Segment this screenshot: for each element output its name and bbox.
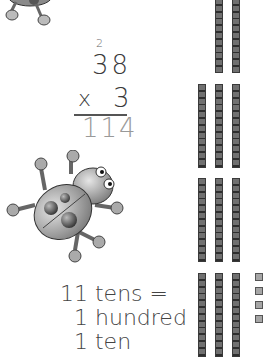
multiplier: 3 <box>113 83 133 113</box>
ten-rod <box>198 178 206 262</box>
ten-rod <box>215 178 223 262</box>
carry-digit: 2 <box>96 37 106 50</box>
ten-rod <box>215 273 223 357</box>
explanation-line-3: 1 ten <box>74 330 131 354</box>
ten-rod <box>198 273 206 357</box>
unit-cube <box>255 301 263 309</box>
ten-rod <box>232 0 240 73</box>
ten-rod <box>232 178 240 262</box>
ten-rod <box>198 84 206 168</box>
ten-rod <box>232 273 240 357</box>
multiplicand: 38 <box>92 50 131 80</box>
explanation-line-2: 1 hundred <box>74 306 187 330</box>
explanation-line-1: 11 tens = <box>60 282 168 306</box>
ladybug-robot-icon <box>5 150 125 270</box>
unit-cube <box>255 315 263 323</box>
ten-rod <box>215 84 223 168</box>
ten-rod <box>232 84 240 168</box>
unit-cube <box>255 287 263 295</box>
ten-rod <box>215 0 223 73</box>
unit-cube <box>255 273 263 281</box>
multiply-operator: x <box>78 86 94 111</box>
ladybug-icon <box>0 0 60 28</box>
product: 114 <box>82 113 138 143</box>
